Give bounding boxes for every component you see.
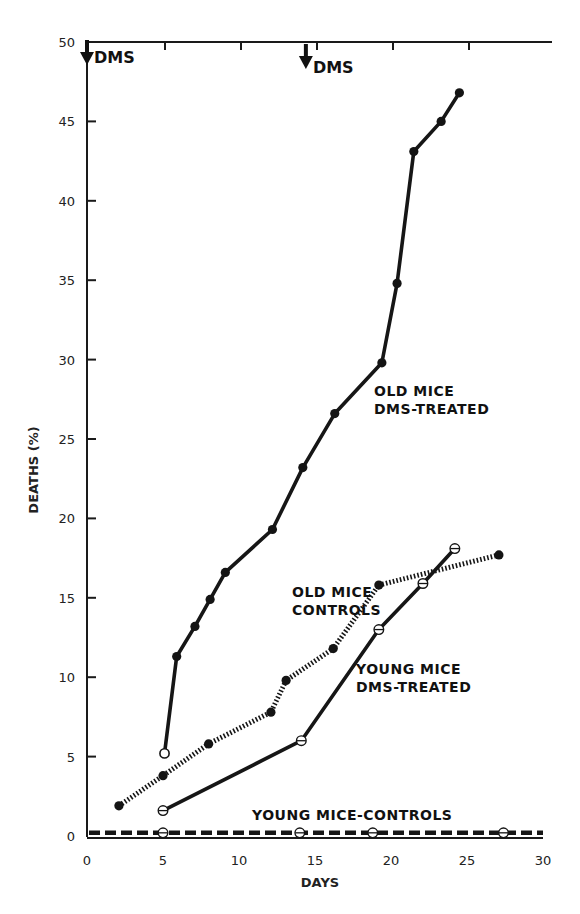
dms-arrow-annotation: DMS <box>80 40 135 67</box>
x-tick-label: 0 <box>83 853 91 868</box>
series-old-mice-dms-treated: OLD MICEDMS-TREATED <box>160 88 489 758</box>
data-point <box>392 279 401 288</box>
y-tick-label: 5 <box>67 750 75 765</box>
x-tick-label: 5 <box>159 853 167 868</box>
data-point <box>190 622 199 631</box>
y-tick-label: 15 <box>58 591 75 606</box>
series-label: OLD MICE <box>292 584 372 600</box>
data-point <box>437 117 446 126</box>
data-point <box>330 409 339 418</box>
y-tick-label: 45 <box>58 114 75 129</box>
dms-arrow-annotation: DMS <box>299 44 354 77</box>
x-tick-label: 15 <box>307 853 324 868</box>
y-tick-label: 35 <box>58 273 75 288</box>
deaths-line-chart: 05101520253035404550051015202530DAYSDEAT… <box>0 0 580 914</box>
series-label: YOUNG MICE <box>355 661 461 677</box>
data-point <box>172 652 181 661</box>
y-axis-title: DEATHS (%) <box>26 426 41 513</box>
x-axis-title: DAYS <box>301 875 339 890</box>
data-point <box>455 88 464 97</box>
data-point <box>268 525 277 534</box>
axes: 05101520253035404550051015202530DAYSDEAT… <box>26 35 552 890</box>
y-tick-label: 30 <box>58 353 75 368</box>
arrow-head-icon <box>80 52 94 65</box>
data-point <box>409 147 418 156</box>
x-tick-label: 30 <box>535 853 552 868</box>
series-line <box>165 93 460 754</box>
series-label: DMS-TREATED <box>374 401 489 417</box>
y-tick-label: 10 <box>58 670 75 685</box>
data-point <box>282 676 291 685</box>
data-point <box>374 580 383 589</box>
annotations: DMSDMS <box>80 40 354 77</box>
y-tick-label: 20 <box>58 511 75 526</box>
data-point <box>204 739 213 748</box>
data-point <box>114 801 123 810</box>
data-point <box>221 568 230 577</box>
y-tick-label: 50 <box>58 35 75 50</box>
series-label: DMS-TREATED <box>356 679 471 695</box>
data-point <box>266 708 275 717</box>
data-point <box>494 550 503 559</box>
data-point <box>377 358 386 367</box>
y-tick-label: 0 <box>67 829 75 844</box>
dms-label: DMS <box>313 58 354 77</box>
x-tick-label: 25 <box>459 853 476 868</box>
series-layer: OLD MICEDMS-TREATEDOLD MICECONTROLSYOUNG… <box>89 88 543 837</box>
x-tick-label: 20 <box>383 853 400 868</box>
series-label: CONTROLS <box>292 602 381 618</box>
data-point <box>298 463 307 472</box>
data-point <box>158 771 167 780</box>
arrow-head-icon <box>299 56 313 69</box>
data-point <box>206 595 215 604</box>
x-tick-label: 10 <box>231 853 248 868</box>
dms-label: DMS <box>94 48 135 67</box>
data-point <box>329 644 338 653</box>
series-young-mice-controls: YOUNG MICE-CONTROLS <box>89 807 543 838</box>
data-point <box>160 749 169 758</box>
y-tick-label: 25 <box>58 432 75 447</box>
series-label: YOUNG MICE-CONTROLS <box>251 807 452 823</box>
y-tick-label: 40 <box>58 194 75 209</box>
series-label: OLD MICE <box>374 383 454 399</box>
